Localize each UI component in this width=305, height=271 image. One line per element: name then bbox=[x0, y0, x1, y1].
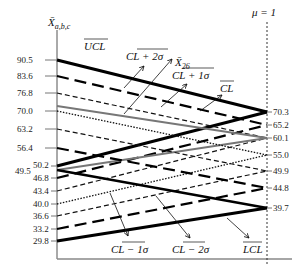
svg-text:60.1: 60.1 bbox=[273, 133, 289, 143]
svg-text:63.2: 63.2 bbox=[17, 124, 33, 134]
cl-label: CL bbox=[220, 82, 233, 94]
right-tick-labels: 70.3 65.2 60.1 55.0 49.9 44.8 39.7 bbox=[273, 107, 289, 213]
cl1-label: CL + 1σ bbox=[172, 69, 210, 81]
svg-text:90.5: 90.5 bbox=[17, 55, 33, 65]
svg-text:50.2: 50.2 bbox=[33, 160, 49, 170]
cl2-label: CL + 2σ bbox=[126, 50, 164, 62]
clm1-label: CL − 1σ bbox=[111, 243, 149, 255]
lcl-line-upper bbox=[57, 170, 267, 208]
cl2-line-upper bbox=[57, 76, 267, 125]
svg-text:43.4: 43.4 bbox=[33, 186, 49, 196]
cl-line-upper bbox=[57, 106, 267, 138]
control-chart: 90.5 83.6 76.8 70.0 63.2 56.4 50.2 49.5 … bbox=[0, 0, 305, 271]
clm2-line-lower bbox=[57, 188, 267, 229]
mu-label: μ = 1 bbox=[251, 6, 276, 18]
svg-text:40.0: 40.0 bbox=[33, 199, 49, 209]
y-axis-label: X̄a,b,c bbox=[47, 16, 71, 31]
cl-line-lower bbox=[57, 138, 267, 170]
svg-text:36.6: 36.6 bbox=[33, 211, 49, 221]
svg-text:56.4: 56.4 bbox=[17, 143, 33, 153]
svg-text:33.2: 33.2 bbox=[33, 224, 49, 234]
ucl-line-lower bbox=[57, 112, 267, 166]
chart-svg: 90.5 83.6 76.8 70.0 63.2 56.4 50.2 49.5 … bbox=[0, 0, 305, 271]
svg-text:65.2: 65.2 bbox=[273, 120, 289, 130]
x26-line-lower bbox=[57, 155, 267, 204]
svg-text:76.8: 76.8 bbox=[17, 88, 33, 98]
ucl-label: UCL bbox=[84, 40, 105, 52]
lcl-line-lower bbox=[57, 208, 267, 241]
svg-text:70.3: 70.3 bbox=[273, 107, 289, 117]
ucl-line-upper bbox=[57, 60, 267, 112]
svg-text:49.5: 49.5 bbox=[15, 166, 31, 176]
svg-text:55.0: 55.0 bbox=[273, 150, 289, 160]
svg-text:44.8: 44.8 bbox=[273, 183, 289, 193]
right-tick-marks bbox=[267, 112, 272, 208]
series-lines bbox=[57, 60, 267, 241]
svg-text:39.7: 39.7 bbox=[273, 203, 289, 213]
lcl-label: LCL bbox=[242, 243, 263, 255]
svg-text:83.6: 83.6 bbox=[17, 71, 33, 81]
svg-text:46.8: 46.8 bbox=[33, 173, 49, 183]
svg-text:29.8: 29.8 bbox=[33, 236, 49, 246]
svg-text:70.0: 70.0 bbox=[17, 106, 33, 116]
left-tick-labels: 90.5 83.6 76.8 70.0 63.2 56.4 50.2 49.5 … bbox=[15, 55, 49, 246]
svg-text:49.9: 49.9 bbox=[273, 166, 289, 176]
clm2-label: CL − 2σ bbox=[172, 243, 210, 255]
cl1-line-upper bbox=[57, 93, 267, 138]
